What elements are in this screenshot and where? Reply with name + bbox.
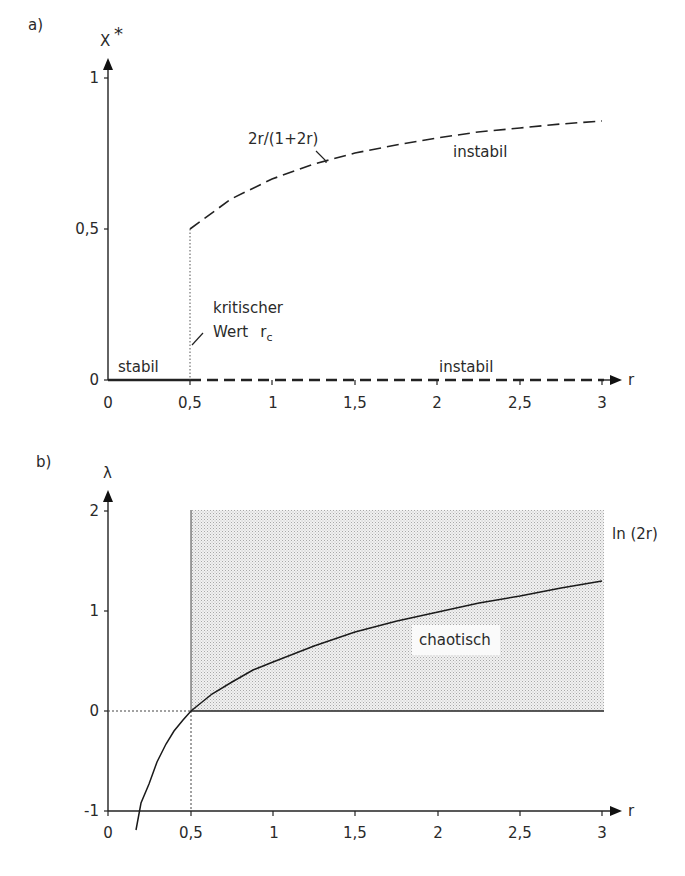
y-tick-1: 1 <box>89 69 99 87</box>
x-tick-2.5: 2,5 <box>508 394 532 412</box>
panel-b-label: b) <box>36 453 51 471</box>
panel-a: a) X * 1 0,5 0 r 0 0,5 1 1,5 2 <box>28 16 635 412</box>
x-tick-3: 3 <box>597 394 607 412</box>
y-axis-label: X <box>100 32 110 50</box>
x-axis-label: r <box>628 371 635 389</box>
kritisch-label-line1: kritischer <box>213 299 284 317</box>
y-tick-1: 1 <box>89 602 99 620</box>
curve-label: ln (2r) <box>612 525 658 543</box>
upper-instabil-label: instabil <box>453 143 507 161</box>
x-tick-1: 1 <box>268 394 278 412</box>
x-tick-1.5: 1,5 <box>343 394 367 412</box>
x-tick-0.5: 0,5 <box>179 824 203 842</box>
y-tick-2: 2 <box>89 502 99 520</box>
y-axis-label: λ <box>103 464 112 482</box>
lower-instabil-label: instabil <box>439 358 493 376</box>
x-axis-arrow-icon <box>610 806 622 816</box>
panel-b: b) chaotisch λ 2 1 0 -1 r <box>36 453 658 842</box>
y-axis-arrow-icon <box>103 58 113 70</box>
x-tick-0: 0 <box>103 394 113 412</box>
x-tick-1.5: 1,5 <box>343 824 367 842</box>
x-tick-3: 3 <box>597 824 607 842</box>
curve-label: 2r/(1+2r) <box>248 130 318 148</box>
stabil-label: stabil <box>118 358 159 376</box>
chaotic-region <box>191 510 604 711</box>
y-tick-minus-1: -1 <box>84 802 99 820</box>
x-tick-1: 1 <box>269 824 279 842</box>
kritisch-leader <box>192 333 203 345</box>
chaotisch-label: chaotisch <box>419 631 491 649</box>
panel-a-label: a) <box>28 16 43 34</box>
x-tick-0.5: 0,5 <box>178 394 202 412</box>
y-axis-arrow-icon <box>103 490 113 502</box>
y-tick-0.5: 0,5 <box>75 220 99 238</box>
x-tick-0: 0 <box>103 824 113 842</box>
y-axis-label-star: * <box>114 23 123 44</box>
x-tick-2: 2 <box>433 824 443 842</box>
kritisch-label-line2: Wertrc <box>213 323 272 344</box>
figure: a) X * 1 0,5 0 r 0 0,5 1 1,5 2 <box>0 0 685 876</box>
y-tick-0: 0 <box>89 371 99 389</box>
x-axis-label: r <box>628 802 635 820</box>
x-tick-2.5: 2,5 <box>508 824 532 842</box>
x-axis-arrow-icon <box>610 375 622 385</box>
x-tick-2: 2 <box>432 394 442 412</box>
y-tick-0: 0 <box>89 702 99 720</box>
